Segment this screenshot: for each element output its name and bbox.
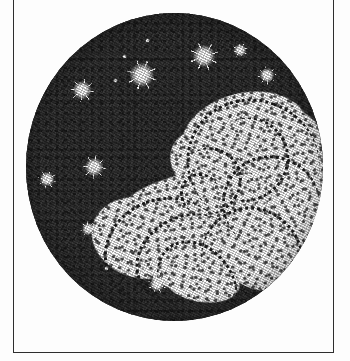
telescope-field-of-view bbox=[26, 13, 323, 321]
engraving-plate bbox=[0, 0, 350, 361]
field-vignette bbox=[26, 13, 323, 321]
